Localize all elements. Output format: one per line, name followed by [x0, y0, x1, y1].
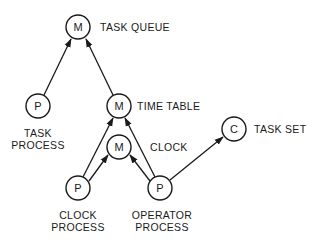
edge-task-process-to-task-queue [44, 39, 71, 95]
node-time-table: M TIME TABLE [107, 94, 200, 118]
label-clock-process-line2: PROCESS [51, 221, 104, 233]
edge-operator-process-to-clock [130, 155, 150, 181]
edge-time-table-to-task-queue [86, 39, 113, 95]
label-time-table: TIME TABLE [137, 100, 200, 112]
label-task-queue: TASK QUEUE [100, 21, 170, 33]
label-clock: CLOCK [150, 141, 188, 153]
node-task-set: C TASK SET [222, 117, 307, 141]
diagram-svg: M TASK QUEUE P TASK PROCESS M TIME TABLE… [0, 0, 315, 246]
label-task-process-line1: TASK [24, 127, 52, 139]
node-letter: M [114, 141, 123, 153]
node-operator-process: P OPERATOR PROCESS [132, 176, 192, 233]
node-task-process: P TASK PROCESS [11, 94, 64, 151]
diagram-canvas: M TASK QUEUE P TASK PROCESS M TIME TABLE… [0, 0, 315, 246]
node-letter: M [73, 21, 82, 33]
node-letter: M [114, 100, 123, 112]
node-letter: P [34, 100, 41, 112]
node-clock: M CLOCK [107, 135, 188, 159]
node-task-queue: M TASK QUEUE [66, 15, 170, 39]
label-task-set: TASK SET [254, 123, 307, 135]
label-clock-process-line1: CLOCK [59, 209, 97, 221]
label-task-process-line2: PROCESS [11, 139, 64, 151]
label-operator-process-line2: PROCESS [135, 221, 188, 233]
label-operator-process-line1: OPERATOR [132, 209, 192, 221]
node-letter: P [74, 182, 81, 194]
node-letter: P [156, 182, 163, 194]
node-letter: C [230, 123, 238, 135]
node-clock-process: P CLOCK PROCESS [51, 176, 104, 233]
